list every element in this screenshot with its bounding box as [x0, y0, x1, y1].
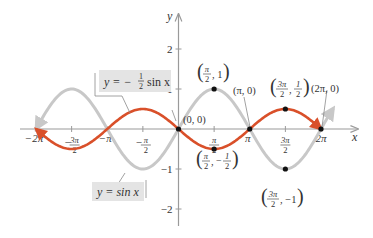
point-label: (π2,−12): [196, 147, 239, 171]
svg-text:2: 2: [139, 82, 143, 91]
svg-text:2: 2: [144, 145, 148, 155]
svg-text:π: π: [212, 135, 217, 145]
svg-text:1: 1: [296, 79, 300, 89]
svg-text:): ): [297, 185, 304, 208]
x-tick-label: π2: [209, 135, 219, 155]
svg-text:(: (: [270, 75, 277, 98]
svg-text:−: −: [136, 136, 142, 148]
svg-text:, 1: , 1: [212, 69, 223, 80]
legend-neg-half-sin: y = − 1 2 sin x: [99, 70, 171, 92]
key-point: [212, 86, 217, 91]
svg-text:2: 2: [283, 145, 287, 155]
key-point: [247, 126, 252, 131]
svg-text:1: 1: [139, 72, 143, 81]
x-axis-label: x: [351, 130, 358, 144]
y-tick-label: 2: [167, 43, 173, 55]
svg-text:3π: 3π: [69, 135, 79, 145]
svg-text:y = −: y = −: [103, 75, 132, 89]
svg-text:π: π: [204, 151, 209, 161]
svg-text:): ): [303, 75, 310, 98]
key-point: [283, 166, 288, 171]
svg-text:(: (: [261, 185, 268, 208]
key-point: [283, 106, 288, 111]
svg-text:,: ,: [289, 84, 292, 95]
svg-text:(: (: [197, 60, 204, 83]
svg-text:(: (: [196, 147, 203, 170]
y-tick-label: −2: [161, 203, 173, 215]
svg-text:): ): [232, 147, 239, 170]
sine-graph: x y −2π−3π2−π−π2π2π3π22π 21−1−2 y = − 1 …: [0, 0, 373, 238]
label-origin: (0, 0): [183, 114, 206, 126]
svg-text:2: 2: [225, 161, 229, 171]
svg-text:): ): [223, 60, 230, 83]
point-label: (π2, 1): [197, 60, 230, 84]
svg-text:y = sin x: y = sin x: [96, 185, 139, 199]
point-label: (3π2,12): [270, 75, 310, 99]
svg-text:3π: 3π: [277, 79, 287, 89]
svg-text:3π: 3π: [268, 189, 278, 199]
svg-text:2: 2: [296, 89, 300, 99]
svg-text:1: 1: [225, 151, 229, 161]
svg-text:2: 2: [280, 89, 284, 99]
svg-text:π: π: [205, 64, 210, 74]
svg-text:2: 2: [205, 74, 209, 84]
key-point: [212, 146, 217, 151]
svg-text:,: ,: [211, 156, 214, 167]
point-label: (3π2, −1): [261, 185, 304, 209]
svg-text:2: 2: [204, 161, 208, 171]
key-point: [176, 126, 181, 131]
key-point: [318, 126, 323, 131]
svg-text:, −1: , −1: [280, 194, 296, 205]
y-tick-label: −1: [161, 163, 173, 175]
svg-text:3π: 3π: [280, 135, 290, 145]
x-tick-label: −3π2: [65, 135, 80, 155]
svg-text:π: π: [144, 135, 149, 145]
svg-text:−: −: [216, 155, 222, 166]
x-ticks: −2π−3π2−π−π2π2π3π22π: [25, 126, 327, 155]
x-tick-label: −π2: [136, 135, 151, 155]
x-tick-label: 3π2: [280, 135, 290, 155]
label-2pi-0: (2π, 0): [311, 83, 340, 95]
svg-text:2: 2: [271, 199, 275, 209]
svg-text:sin x: sin x: [147, 75, 170, 89]
y-axis-label: y: [166, 9, 173, 23]
label-pi-0: (π, 0): [233, 85, 256, 97]
legend-sin: y = sin x: [92, 182, 144, 201]
